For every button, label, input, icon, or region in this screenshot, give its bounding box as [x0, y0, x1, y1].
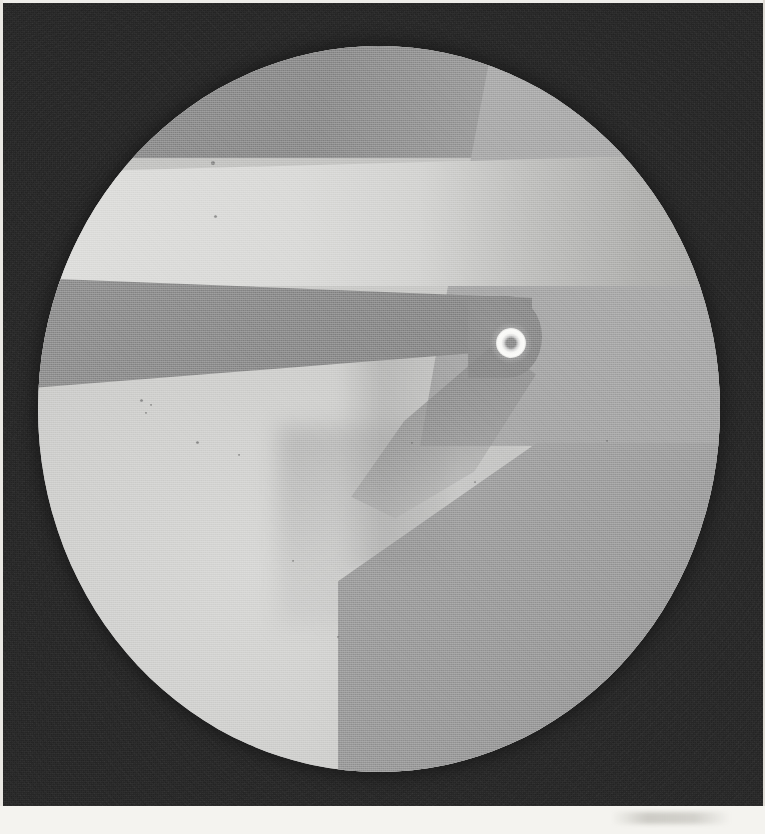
- dust-speck: [150, 404, 152, 406]
- dust-speck: [145, 412, 147, 414]
- field-of-view: [38, 46, 720, 772]
- dust-speck: [292, 560, 294, 562]
- dust-speck: [238, 454, 240, 456]
- dust-speck: [337, 636, 339, 638]
- dust-speck: [214, 215, 217, 218]
- plate-edge-top: [0, 0, 765, 3]
- dust-speck: [474, 481, 476, 483]
- dust-speck: [140, 399, 143, 402]
- paper-margin-smudge: [612, 812, 730, 824]
- figure-root: Circular illuminated field of view conta…: [0, 0, 765, 834]
- aperture-ring-glyph: [496, 328, 526, 358]
- dust-speck: [606, 440, 608, 442]
- region-bright-band: [38, 154, 720, 286]
- dust-speck: [411, 442, 413, 444]
- plate-edge-left: [0, 0, 3, 806]
- dust-speck: [211, 161, 215, 165]
- aperture-ring: [496, 328, 526, 358]
- dust-speck: [196, 441, 199, 444]
